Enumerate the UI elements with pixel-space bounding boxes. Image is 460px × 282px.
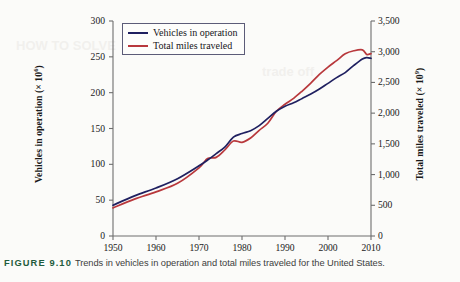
right-tick-label: 2,500 <box>378 76 418 87</box>
left-tick-label: 50 <box>69 194 105 205</box>
left-tick-label: 150 <box>69 123 105 134</box>
right-tick-label: 0 <box>378 230 418 241</box>
chart-legend: Vehicles in operation Total miles travel… <box>122 23 245 55</box>
x-axis-ticks <box>113 236 371 240</box>
right-tick-label: 2,000 <box>378 107 418 118</box>
x-tick-label: 1970 <box>181 242 217 253</box>
x-tick-label: 1990 <box>267 242 303 253</box>
x-tick-label: 2000 <box>310 242 346 253</box>
x-tick-label: 2010 <box>353 242 389 253</box>
right-tick-label: 1,500 <box>378 138 418 149</box>
right-tick-label: 3,500 <box>378 15 418 26</box>
series-line-total-miles-traveled <box>113 50 371 208</box>
legend-swatch-miles <box>128 45 148 47</box>
x-tick-label: 1950 <box>95 242 131 253</box>
legend-item: Vehicles in operation <box>128 27 237 38</box>
figure-caption-text: Trends in vehicles in operation and tota… <box>75 258 385 268</box>
left-axis-title: Vehicles in operation (× 106) <box>32 39 44 209</box>
right-tick-label: 500 <box>378 199 418 210</box>
left-tick-label: 250 <box>69 51 105 62</box>
figure-caption: FIGURE 9.10Trends in vehicles in operati… <box>4 258 458 268</box>
figure-container: HOW TO SOLVE trade off Vehicles in opera… <box>0 0 460 255</box>
left-tick-label: 0 <box>69 230 105 241</box>
x-tick-label: 1980 <box>224 242 260 253</box>
figure-caption-label: FIGURE 9.10 <box>4 258 72 268</box>
legend-label-vehicles: Vehicles in operation <box>153 27 237 38</box>
legend-label-miles: Total miles traveled <box>153 40 232 51</box>
right-tick-label: 1,000 <box>378 169 418 180</box>
left-axis-ticks <box>109 21 113 236</box>
x-tick-label: 1960 <box>138 242 174 253</box>
right-tick-label: 3,000 <box>378 46 418 57</box>
series-line-vehicles-in-operation <box>113 58 371 206</box>
legend-item: Total miles traveled <box>128 40 237 51</box>
left-tick-label: 100 <box>69 158 105 169</box>
left-tick-label: 300 <box>69 15 105 26</box>
right-axis-title: Total miles traveled (× 109) <box>413 39 425 209</box>
legend-swatch-vehicles <box>128 32 148 34</box>
left-tick-label: 200 <box>69 87 105 98</box>
